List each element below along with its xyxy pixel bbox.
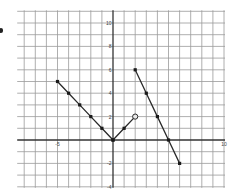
filled-point-marker bbox=[178, 162, 181, 165]
filled-point-marker bbox=[111, 138, 114, 141]
filled-point-marker bbox=[134, 68, 137, 71]
filled-point-marker bbox=[89, 115, 92, 118]
filled-point-marker bbox=[56, 80, 59, 83]
axes bbox=[17, 10, 225, 188]
coordinate-graph: -510108642-2-4 bbox=[0, 0, 230, 194]
filled-point-marker bbox=[167, 138, 170, 141]
filled-point-marker bbox=[123, 127, 126, 130]
y-tick-label: 2 bbox=[109, 114, 112, 120]
y-tick-label: 6 bbox=[109, 67, 112, 73]
filled-point-marker bbox=[78, 103, 81, 106]
y-tick-label: -4 bbox=[107, 184, 112, 190]
filled-point-marker bbox=[67, 92, 70, 95]
y-tick-label: -2 bbox=[107, 160, 112, 166]
x-tick-label: 10 bbox=[221, 141, 227, 147]
grid-lines bbox=[17, 10, 225, 188]
filled-point-marker bbox=[100, 127, 103, 130]
y-tick-label: 10 bbox=[106, 20, 112, 26]
open-point-marker bbox=[133, 114, 138, 119]
filled-point-marker bbox=[145, 92, 148, 95]
filled-point-marker bbox=[156, 115, 159, 118]
y-tick-label: 4 bbox=[109, 90, 112, 96]
segment-1-line bbox=[58, 82, 114, 141]
y-tick-label: 8 bbox=[109, 43, 112, 49]
x-tick-label: -5 bbox=[55, 141, 60, 147]
